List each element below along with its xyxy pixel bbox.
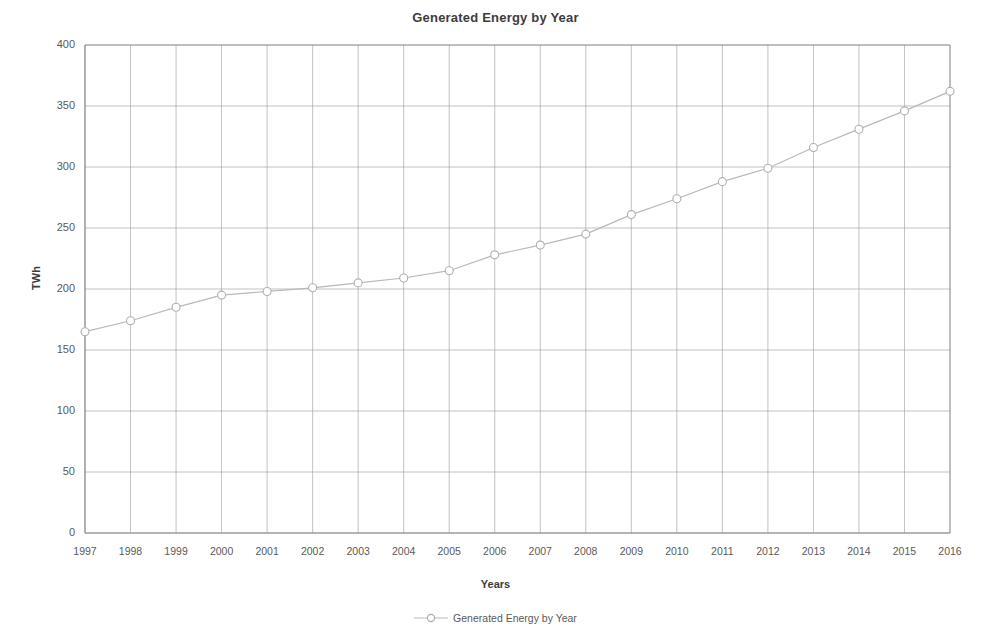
- x-axis-tick-label: 2012: [745, 545, 791, 557]
- y-axis-tick-label: 300: [31, 160, 75, 172]
- y-axis-tick-label: 100: [31, 404, 75, 416]
- x-axis-tick-label: 1998: [108, 545, 154, 557]
- x-axis-tick-label: 2009: [608, 545, 654, 557]
- x-axis-tick-label: 2006: [472, 545, 518, 557]
- x-axis-tick-label: 2013: [790, 545, 836, 557]
- y-axis-tick-label: 350: [31, 99, 75, 111]
- x-axis-tick-label: 2014: [836, 545, 882, 557]
- x-axis-tick-label: 2005: [426, 545, 472, 557]
- x-axis-tick-label: 2002: [290, 545, 336, 557]
- y-axis-tick-label: 0: [31, 526, 75, 538]
- y-axis-tick-label: 400: [31, 38, 75, 50]
- y-axis-tick-label: 250: [31, 221, 75, 233]
- x-axis-tick-label: 2008: [563, 545, 609, 557]
- y-axis-tick-label: 50: [31, 465, 75, 477]
- legend-marker-icon: [414, 612, 448, 624]
- x-axis-tick-label: 2016: [927, 545, 973, 557]
- y-axis-tick-label: 150: [31, 343, 75, 355]
- x-axis-tick-label: 2007: [517, 545, 563, 557]
- x-axis-tick-label: 2004: [381, 545, 427, 557]
- y-axis-tick-label: 200: [31, 282, 75, 294]
- legend-label: Generated Energy by Year: [453, 612, 577, 624]
- chart-figure: Generated Energy by Year TWh Years 05010…: [0, 0, 991, 644]
- x-axis-tick-label: 2003: [335, 545, 381, 557]
- x-axis-tick-label: 2000: [199, 545, 245, 557]
- x-axis-tick-label: 1999: [153, 545, 199, 557]
- chart-legend: Generated Energy by Year: [0, 612, 991, 624]
- x-axis-tick-label: 1997: [62, 545, 108, 557]
- x-axis-tick-label: 2015: [881, 545, 927, 557]
- x-axis-tick-label: 2010: [654, 545, 700, 557]
- x-axis-tick-label: 2011: [699, 545, 745, 557]
- x-axis-title: Years: [0, 578, 991, 590]
- x-axis-tick-label: 2001: [244, 545, 290, 557]
